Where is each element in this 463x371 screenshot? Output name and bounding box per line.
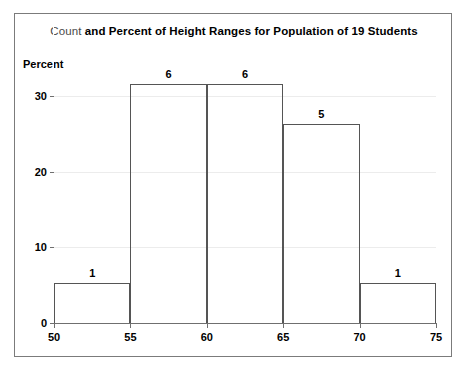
x-tick-mark-75 xyxy=(436,323,437,328)
bar-data-label-50-55: 1 xyxy=(89,267,95,279)
chart-title-soft-part: Count xyxy=(50,25,81,37)
x-tick-mark-65 xyxy=(283,323,284,328)
x-tick-label-50: 50 xyxy=(48,331,60,343)
y-tick-label-30: 30 xyxy=(35,90,47,102)
x-tick-label-75: 75 xyxy=(430,331,442,343)
bar-data-label-65-70: 5 xyxy=(318,108,324,120)
plot-area: 0102030 16651 505560657075 xyxy=(54,58,436,323)
bar-data-label-70-75: 1 xyxy=(395,267,401,279)
x-tick-label-60: 60 xyxy=(201,331,213,343)
chart-title-bold-part: and Percent of Height Ranges for Populat… xyxy=(81,25,417,37)
x-tick-mark-55 xyxy=(130,323,131,328)
y-tick-label-0: 0 xyxy=(41,317,47,329)
y-tick-mark-10 xyxy=(50,247,54,248)
bar-data-label-60-65: 6 xyxy=(242,68,248,80)
bar-70-75[interactable] xyxy=(360,283,436,323)
y-tick-mark-30 xyxy=(50,96,54,97)
bar-data-label-55-60: 6 xyxy=(166,68,172,80)
y-tick-label-20: 20 xyxy=(35,166,47,178)
x-tick-label-55: 55 xyxy=(124,331,136,343)
chart-title: Count and Percent of Height Ranges for P… xyxy=(15,25,453,37)
y-tick-mark-20 xyxy=(50,172,54,173)
chart-frame: Count and Percent of Height Ranges for P… xyxy=(14,13,452,357)
gridline-y-0 xyxy=(54,323,436,324)
x-tick-mark-70 xyxy=(360,323,361,328)
x-tick-mark-50 xyxy=(54,323,55,328)
bar-50-55[interactable] xyxy=(54,283,130,323)
x-tick-mark-60 xyxy=(207,323,208,328)
x-tick-label-70: 70 xyxy=(353,331,365,343)
y-tick-label-10: 10 xyxy=(35,241,47,253)
bar-60-65[interactable] xyxy=(207,84,283,323)
x-tick-label-65: 65 xyxy=(277,331,289,343)
y-axis-line xyxy=(53,14,54,323)
bar-55-60[interactable] xyxy=(130,84,206,323)
bar-65-70[interactable] xyxy=(283,124,359,323)
